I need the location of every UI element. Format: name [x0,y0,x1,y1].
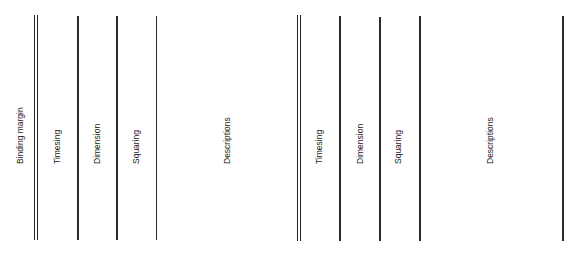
squaring-column-rule [156,16,158,240]
dimension-column-rule [116,16,118,240]
label-right-timesing: Timesing [314,130,324,164]
label-right-descriptions: Descriptions [485,117,495,164]
right-squaring-column-rule [419,16,421,241]
label-descriptions: Descriptions [222,117,232,164]
label-dimension: Dimension [92,124,102,164]
label-timesing: Timesing [52,130,62,164]
right-dimension-column-rule [379,17,381,241]
right-descriptions-end-rule [562,16,564,241]
dimension-paper-diagram: Binding margin Timesing Dimension Squari… [0,0,579,255]
label-binding-margin: Binding margin [15,107,25,164]
label-squaring: Squaring [131,130,141,164]
right-timesing-column-rule [339,16,341,241]
label-right-dimension: Dimension [355,124,365,164]
right-sheet-double-rule [297,15,301,241]
binding-margin-double-rule [34,15,38,240]
timesing-column-rule [77,16,79,240]
label-right-squaring: Squaring [393,130,403,164]
